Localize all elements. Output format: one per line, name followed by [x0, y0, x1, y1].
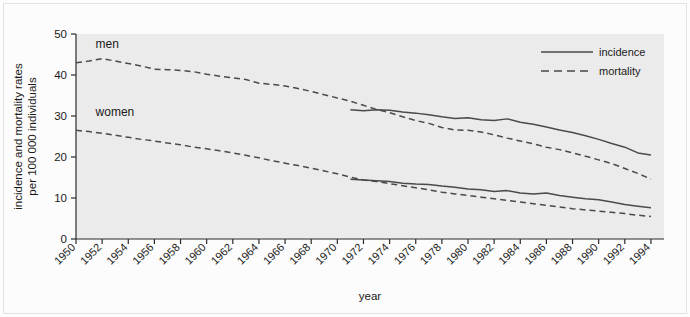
series-annotation-women: women: [95, 105, 135, 119]
x-tick-label: 1954: [104, 241, 130, 267]
x-tick-label: 1972: [339, 241, 365, 267]
legend-label-mortality: mortality: [599, 65, 641, 77]
x-tick-label: 1958: [156, 241, 182, 267]
x-tick-label: 1974: [365, 241, 391, 267]
x-tick-label: 1978: [417, 241, 443, 267]
x-tick-label: 1976: [391, 241, 417, 267]
y-tick-label: 10: [54, 192, 67, 204]
x-tick-label: 1970: [313, 241, 339, 267]
x-tick-label: 1964: [235, 241, 261, 267]
x-tick-label: 1952: [78, 241, 104, 267]
x-tick-label: 1956: [130, 241, 156, 267]
x-tick-label: 1990: [574, 241, 600, 267]
x-tick-label: 1984: [496, 241, 522, 267]
y-axis-title-line1: incidence and mortality rates: [12, 63, 24, 210]
figure-container: 0102030405019501952195419561958196019621…: [0, 0, 690, 317]
x-tick-label: 1960: [182, 241, 208, 267]
x-tick-label: 1982: [470, 241, 496, 267]
y-tick-label: 50: [54, 28, 67, 40]
x-tick-label: 1968: [287, 241, 313, 267]
x-tick-label: 1986: [522, 241, 548, 267]
x-tick-label: 1980: [444, 241, 470, 267]
y-tick-label: 30: [54, 110, 67, 122]
x-tick-label: 1988: [548, 241, 574, 267]
x-axis-title: year: [359, 290, 382, 302]
plot-background: [76, 34, 664, 239]
x-tick-label: 1962: [208, 241, 234, 267]
y-tick-label: 40: [54, 69, 67, 81]
y-tick-label: 20: [54, 151, 67, 163]
x-tick-label: 1966: [261, 241, 287, 267]
x-tick-label: 1992: [600, 241, 626, 267]
x-tick-label: 1994: [627, 241, 653, 267]
legend-label-incidence: incidence: [599, 46, 645, 58]
y-axis-title-line2: per 100 000 individuals: [26, 77, 38, 196]
line-chart: 0102030405019501952195419561958196019621…: [0, 0, 690, 317]
series-annotation-men: men: [96, 37, 119, 51]
x-tick-label: 1950: [52, 241, 78, 267]
